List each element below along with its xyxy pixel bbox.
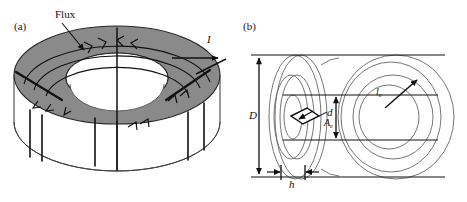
panel-b-drawing — [233, 0, 467, 202]
panel-b: (b) — [233, 0, 467, 202]
panel-a: (a) — [0, 0, 234, 202]
panel-a-drawing — [0, 0, 234, 202]
outer-diameter-label: D — [249, 109, 257, 121]
effective-area-label: Ae — [324, 117, 333, 130]
effective-length-label: le — [376, 86, 382, 99]
effective-length-subscript: e — [379, 91, 382, 99]
effective-length-arrow — [385, 80, 417, 108]
effective-area-subscript: e — [330, 122, 333, 130]
flux-label: Flux — [55, 8, 75, 20]
current-label: I — [207, 33, 211, 45]
coil-rings-right — [338, 55, 454, 179]
effective-area-element — [291, 108, 327, 124]
figure-toroid-core: (a) — [0, 0, 467, 202]
winding-height-label: h — [289, 178, 295, 190]
